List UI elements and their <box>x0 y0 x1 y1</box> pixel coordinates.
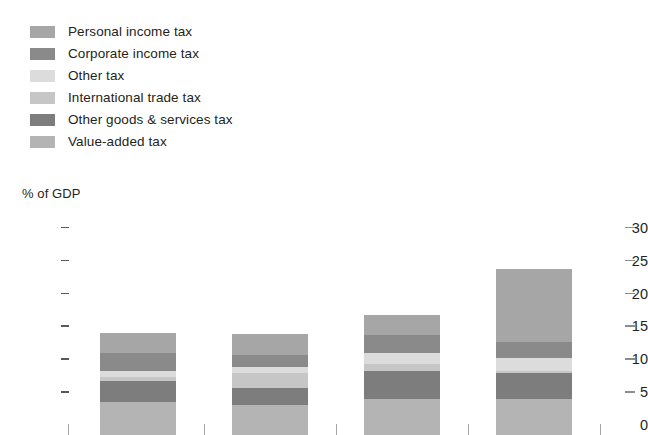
bar-segment[interactable] <box>496 269 572 341</box>
bar-segment[interactable] <box>364 315 440 335</box>
stacked-bar[interactable] <box>100 333 176 435</box>
bar-segment[interactable] <box>364 335 440 353</box>
y-axis-tick-mark <box>61 325 69 327</box>
legend-swatch-icon <box>30 136 55 148</box>
legend-item-label: Personal income tax <box>68 25 192 39</box>
legend-item[interactable]: Other goods & services tax <box>30 109 350 131</box>
bar-segment[interactable] <box>364 399 440 435</box>
x-axis-tick-mark <box>336 424 337 435</box>
plot-area: 302520151050 <box>0 215 648 430</box>
legend-item[interactable]: Corporate income tax <box>30 43 350 65</box>
bar-segment[interactable] <box>100 381 176 402</box>
legend-item[interactable]: Other tax <box>30 65 350 87</box>
legend-item-label: Other tax <box>68 69 124 83</box>
right-axis-tick-mark <box>625 391 635 393</box>
x-axis-tick-mark <box>468 424 469 435</box>
right-axis-tick-mark <box>625 260 635 262</box>
x-axis-tick-start <box>68 424 69 435</box>
bar-segment[interactable] <box>232 355 308 367</box>
y-axis-tick-mark <box>61 227 69 229</box>
bar-segment[interactable] <box>364 371 440 399</box>
y-axis-tick-mark <box>61 358 69 360</box>
stacked-bar[interactable] <box>364 315 440 435</box>
bar-segment[interactable] <box>100 333 176 353</box>
x-axis-tick-mark <box>600 424 601 435</box>
bar-group <box>70 215 625 430</box>
legend-swatch-icon <box>30 26 55 38</box>
bar-segment[interactable] <box>100 402 176 435</box>
bar-segment[interactable] <box>232 373 308 387</box>
legend-item-label: Value-added tax <box>68 135 167 149</box>
legend-item-label: Other goods & services tax <box>68 113 233 127</box>
legend-swatch-icon <box>30 114 55 126</box>
right-axis-tick-mark <box>625 227 635 229</box>
bar-segment[interactable] <box>100 353 176 371</box>
legend-item-label: International trade tax <box>68 91 201 105</box>
right-axis-tick-mark <box>625 293 635 295</box>
right-axis-tick-mark <box>625 325 635 327</box>
bar-segment[interactable] <box>496 373 572 399</box>
bar-segment[interactable] <box>232 388 308 405</box>
bar-segment[interactable] <box>496 358 572 370</box>
y-axis-tick-mark <box>61 260 69 262</box>
legend-item[interactable]: Value-added tax <box>30 131 350 153</box>
legend-swatch-icon <box>30 70 55 82</box>
stacked-bar[interactable] <box>232 334 308 435</box>
y-axis-tick-mark <box>61 293 69 295</box>
bar-segment[interactable] <box>496 342 572 358</box>
stacked-bar[interactable] <box>496 269 572 435</box>
right-axis-tick-mark <box>625 358 635 360</box>
y-axis-title: % of GDP <box>22 186 81 201</box>
bar-segment[interactable] <box>232 405 308 435</box>
x-axis-tick-mark <box>204 424 205 435</box>
chart-legend: Personal income taxCorporate income taxO… <box>30 21 350 153</box>
legend-swatch-icon <box>30 92 55 104</box>
legend-item[interactable]: Personal income tax <box>30 21 350 43</box>
y-axis-tick-mark <box>61 391 69 393</box>
bar-segment[interactable] <box>232 334 308 355</box>
bar-segment[interactable] <box>364 353 440 364</box>
bar-segment[interactable] <box>364 364 440 371</box>
legend-swatch-icon <box>30 48 55 60</box>
legend-item[interactable]: International trade tax <box>30 87 350 109</box>
bar-segment[interactable] <box>496 399 572 435</box>
legend-item-label: Corporate income tax <box>68 47 199 61</box>
